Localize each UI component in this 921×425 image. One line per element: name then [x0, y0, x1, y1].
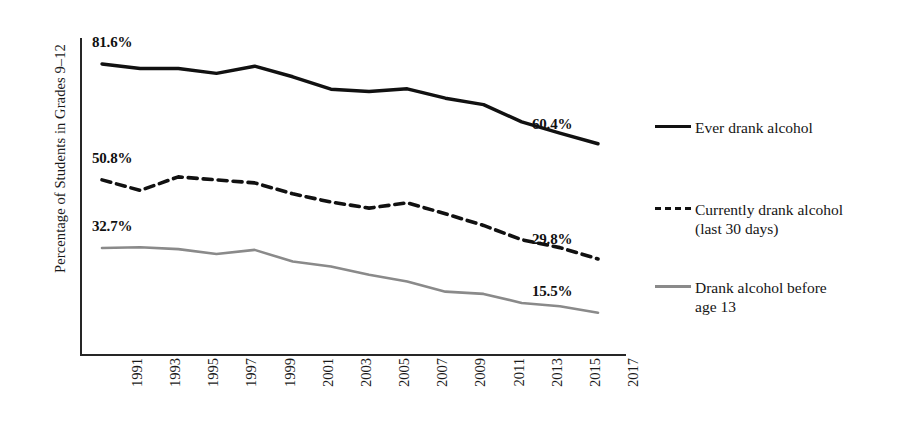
- legend-swatch-solid-icon: [655, 118, 691, 134]
- x-axis-tick-labels: 1991199319951997199920012003200520072009…: [80, 358, 626, 424]
- legend-item-0[interactable]: Ever drank alcohol: [655, 118, 813, 137]
- value-label-ever-end: 60.4%: [532, 116, 572, 133]
- x-tick-1995: 1995: [205, 358, 222, 412]
- x-tick-1993: 1993: [167, 358, 184, 412]
- value-label-current-start: 50.8%: [92, 150, 132, 167]
- x-tick-2017: 2017: [625, 358, 642, 412]
- x-tick-2003: 2003: [358, 358, 375, 412]
- legend-label-2: Drank alcohol before age 13: [695, 278, 827, 316]
- x-tick-1997: 1997: [243, 358, 260, 412]
- value-label-before13-end: 15.5%: [532, 283, 572, 300]
- legend-item-1[interactable]: Currently drank alcohol (last 30 days): [655, 200, 843, 238]
- x-tick-1999: 1999: [282, 358, 299, 412]
- x-tick-2001: 2001: [320, 358, 337, 412]
- y-axis-title: Percentage of Students in Grades 9–12: [52, 0, 69, 319]
- legend-swatch-gray-solid-icon: [655, 278, 691, 294]
- legend-label-0: Ever drank alcohol: [695, 118, 813, 137]
- x-tick-2013: 2013: [549, 358, 566, 412]
- value-label-before13-start: 32.7%: [92, 218, 132, 235]
- plot-area: [80, 38, 626, 356]
- legend-swatch-dashed-icon: [655, 200, 691, 216]
- x-tick-2011: 2011: [511, 358, 528, 412]
- series-line-2: [102, 247, 598, 312]
- legend-item-2[interactable]: Drank alcohol before age 13: [655, 278, 827, 316]
- value-label-current-end: 29.8%: [532, 231, 572, 248]
- x-tick-2005: 2005: [396, 358, 413, 412]
- value-label-ever-start: 81.6%: [92, 34, 132, 51]
- x-tick-2007: 2007: [434, 358, 451, 412]
- legend-label-1: Currently drank alcohol (last 30 days): [695, 200, 843, 238]
- series-line-0: [102, 64, 598, 144]
- x-tick-2009: 2009: [472, 358, 489, 412]
- series-line-1: [102, 177, 598, 259]
- chart-figure: Percentage of Students in Grades 9–12 19…: [0, 0, 921, 425]
- x-tick-1991: 1991: [129, 358, 146, 412]
- series-lines: [80, 38, 626, 356]
- x-tick-2015: 2015: [587, 358, 604, 412]
